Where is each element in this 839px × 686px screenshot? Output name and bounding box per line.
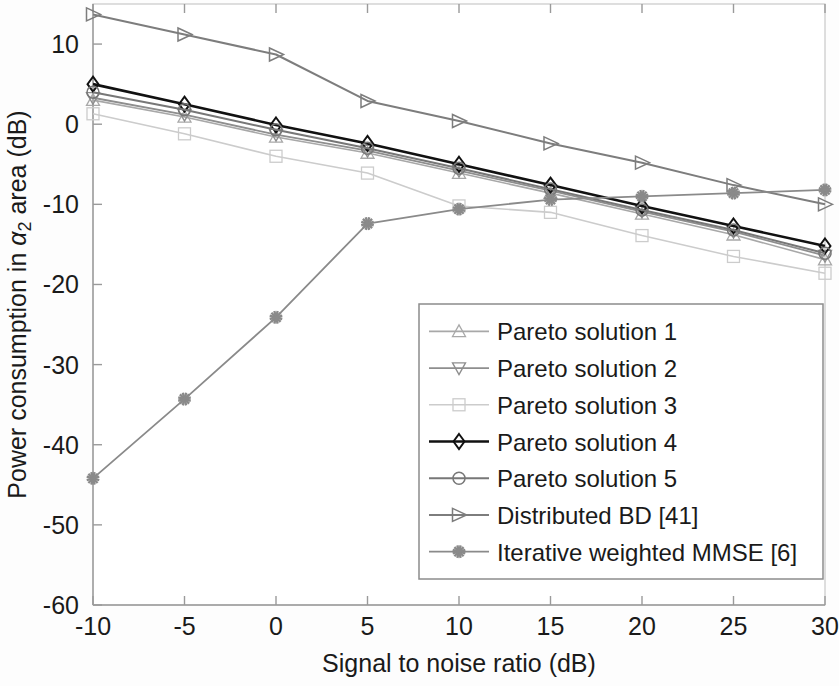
x-axis-tick-labels: -10-5051015202530 [75, 612, 839, 640]
chart-figure: -10-5051015202530 100-10-20-30-40-50-60 … [0, 0, 839, 686]
x-tick-label: 0 [269, 612, 283, 640]
y-axis-title: Power consumption in α2 area (dB) [3, 110, 35, 498]
y-tick-label: -40 [43, 431, 79, 459]
y-axis-title-text: Power consumption in α2 area (dB) [3, 110, 35, 498]
chart-canvas: -10-5051015202530 100-10-20-30-40-50-60 … [0, 0, 839, 686]
y-tick-label: -50 [43, 511, 79, 539]
x-tick-label: -10 [75, 612, 111, 640]
marker-star [270, 311, 283, 324]
chart-legend: Pareto solution 1Pareto solution 2Pareto… [419, 304, 823, 579]
marker-star [87, 472, 100, 485]
y-axis-title-group: Power consumption in α2 area (dB) [3, 110, 35, 498]
marker-star [453, 203, 466, 216]
x-tick-label: 25 [720, 612, 748, 640]
x-tick-label: 20 [628, 612, 656, 640]
x-axis-title: Signal to noise ratio (dB) [322, 649, 596, 677]
x-tick-label: 5 [361, 612, 375, 640]
x-tick-label: 10 [445, 612, 473, 640]
x-axis-title-text: Signal to noise ratio (dB) [322, 649, 596, 677]
legend-label: Distributed BD [41] [497, 502, 698, 529]
marker-star [544, 193, 557, 206]
y-tick-label: -20 [43, 270, 79, 298]
marker-star [636, 190, 649, 203]
y-tick-label: -10 [43, 190, 79, 218]
y-axis-tick-labels: 100-10-20-30-40-50-60 [43, 30, 79, 619]
x-tick-label: 30 [811, 612, 839, 640]
marker-star [178, 393, 191, 406]
legend-label: Pareto solution 5 [497, 465, 677, 492]
x-tick-label: -5 [173, 612, 195, 640]
y-tick-label: -30 [43, 351, 79, 379]
marker-star [453, 545, 466, 558]
y-tick-label: -60 [43, 591, 79, 619]
legend-label: Pareto solution 1 [497, 318, 677, 345]
legend-label: Pareto solution 4 [497, 429, 677, 456]
marker-star [819, 184, 832, 197]
y-tick-label: 0 [65, 110, 79, 138]
legend-label: Pareto solution 3 [497, 392, 677, 419]
x-tick-label: 15 [537, 612, 565, 640]
marker-star [727, 187, 740, 200]
legend-label: Iterative weighted MMSE [6] [497, 539, 797, 566]
legend-label: Pareto solution 2 [497, 355, 677, 382]
marker-star [361, 217, 374, 230]
y-tick-label: 10 [51, 30, 79, 58]
